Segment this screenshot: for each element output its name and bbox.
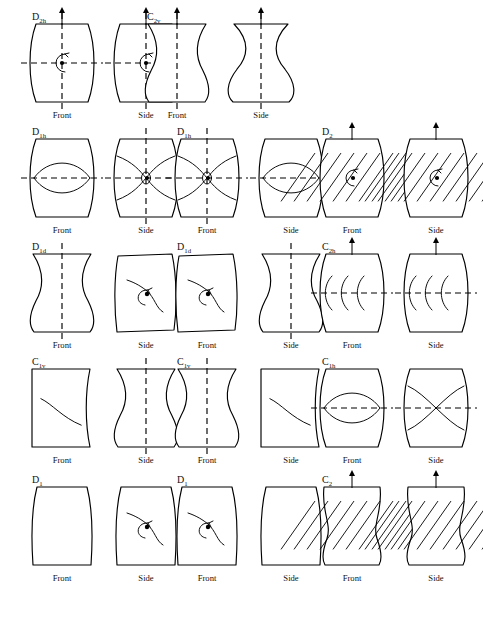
- panel-c2-front-caption: Front: [320, 573, 384, 583]
- panel-d1d-front-drawing: [18, 234, 106, 346]
- panel-c2h-front-axis-arrowhead: [349, 237, 355, 243]
- panel-c2v-front-view: [133, 4, 221, 116]
- panel-c2h-side-axis-arrowhead: [433, 237, 439, 243]
- panel-c2-front-outline: [323, 487, 381, 565]
- panel-c2v-front-axis-arrowhead: [174, 7, 180, 13]
- panel-c1v-front-caption: Front: [175, 455, 239, 465]
- panel-c2h-side-view: [392, 234, 480, 346]
- panel-c1v-front-drawing: [163, 349, 251, 461]
- panel-c2h-front-view: [308, 234, 396, 346]
- panel-c2-front-axis-arrowhead: [349, 470, 355, 476]
- panel-d1h-front-view: [18, 119, 106, 231]
- panel-d1-front-caption: Front: [30, 573, 94, 583]
- panel-d1h-front-view: [163, 119, 251, 231]
- panel-d1d-front-drawing: [163, 234, 251, 346]
- panel-d1-front-view: [163, 467, 251, 579]
- panel-c1h-side-view: [392, 349, 480, 461]
- panel-c2v-front-drawing: [133, 4, 221, 116]
- panel-c1v-front-caption: Front: [30, 455, 94, 465]
- panel-c2-front-drawing: [308, 467, 396, 579]
- panel-c2-side-caption: Side: [404, 573, 468, 583]
- panel-d1-front-drawing: [163, 467, 251, 579]
- panel-d1-front-drawing: [18, 467, 106, 579]
- panel-c1v-front-view: [18, 349, 106, 461]
- panel-d1-front-view: [18, 467, 106, 579]
- panel-c2-side-axis-arrowhead: [433, 470, 439, 476]
- panel-d1h-front-drawing: [18, 119, 106, 231]
- panel-d2h-front-drawing: [18, 4, 106, 116]
- panel-c2-side-drawing: [392, 467, 480, 579]
- panel-d1-front-outline: [32, 487, 92, 565]
- panel-c2-front-view: [308, 467, 396, 579]
- panel-d2h-front-axis-arrowhead: [59, 7, 65, 13]
- panel-d2-side-drawing: [392, 119, 480, 231]
- panel-d1h-front-drawing: [163, 119, 251, 231]
- panel-d2-side-view: [392, 119, 480, 231]
- panel-d1-front-caption: Front: [175, 573, 239, 583]
- panel-c1h-front-drawing: [308, 349, 396, 461]
- panel-c2-side-view: [392, 467, 480, 579]
- panel-c2v-side-drawing: [217, 4, 305, 116]
- panel-d2-side-axis-arrowhead: [433, 122, 439, 128]
- panel-d2h-front-view: [18, 4, 106, 116]
- symmetry-group-figure: D2hFrontSideC2vFrontSideD1hFrontSideD1hF…: [0, 0, 483, 621]
- panel-c2v-side-view: [217, 4, 305, 116]
- panel-c1h-front-view: [308, 349, 396, 461]
- panel-c1h-side-caption: Side: [404, 455, 468, 465]
- panel-d2-front-view: [308, 119, 396, 231]
- panel-c2-side-outline: [407, 487, 465, 565]
- panel-c2v-side-axis-arrowhead: [258, 7, 264, 13]
- panel-d2-front-drawing: [308, 119, 396, 231]
- panel-c1h-side-drawing: [392, 349, 480, 461]
- panel-c1v-front-outline: [32, 369, 90, 447]
- panel-c1h-front-caption: Front: [320, 455, 384, 465]
- panel-d2-front-axis-arrowhead: [349, 122, 355, 128]
- panel-d1d-front-view: [163, 234, 251, 346]
- panel-c1v-front-view: [163, 349, 251, 461]
- panel-c2h-side-drawing: [392, 234, 480, 346]
- panel-c2h-front-drawing: [308, 234, 396, 346]
- panel-c1v-front-drawing: [18, 349, 106, 461]
- panel-d1d-front-view: [18, 234, 106, 346]
